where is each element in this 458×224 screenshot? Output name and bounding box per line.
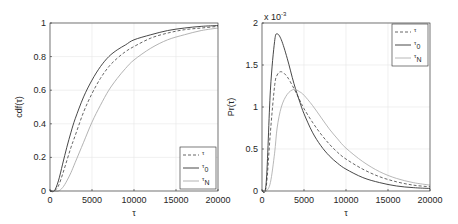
y-tick-label: 1.5 — [245, 60, 258, 70]
x-tick-label: 0 — [259, 195, 264, 205]
y-tick-label: 0 — [253, 186, 258, 196]
y-tick-label: 0.2 — [33, 152, 46, 162]
x-tick-label: 10000 — [333, 195, 358, 205]
x-tick-label: 5000 — [82, 195, 102, 205]
x-tick-label: 20000 — [417, 195, 442, 205]
legend: ττ0τN — [180, 147, 216, 189]
cdf-chart: 0500010000150002000000.20.40.60.81τcdf(τ… — [14, 18, 231, 218]
figure: 0500010000150002000000.20.40.60.81τcdf(τ… — [0, 0, 458, 224]
x-tick-label: 20000 — [205, 195, 230, 205]
legend: ττ0τN — [392, 24, 428, 66]
x-tick-label: 5000 — [294, 195, 314, 205]
y-tick-label: 2 — [253, 18, 258, 28]
pdf-chart: 0500010000150002000000.511.52τPr(τ)x 10-… — [226, 11, 443, 218]
y-tick-label: 0 — [41, 186, 46, 196]
y-tick-label: 1 — [41, 18, 46, 28]
x-tick-label: 0 — [47, 195, 52, 205]
x-tick-label: 15000 — [375, 195, 400, 205]
x-axis-label: τ — [132, 208, 136, 218]
y-axis-label: cdf(τ) — [14, 96, 24, 118]
y-tick-label: 0.8 — [33, 52, 46, 62]
y-tick-label: 1 — [253, 102, 258, 112]
y-tick-label: 0.6 — [33, 85, 46, 95]
x-axis-label: τ — [344, 208, 348, 218]
y-tick-label: 0.5 — [245, 144, 258, 154]
y-multiplier: x 10-3 — [264, 11, 287, 22]
x-tick-label: 15000 — [163, 195, 188, 205]
x-tick-label: 10000 — [121, 195, 146, 205]
y-axis-label: Pr(τ) — [226, 98, 236, 117]
y-tick-label: 0.4 — [33, 119, 46, 129]
